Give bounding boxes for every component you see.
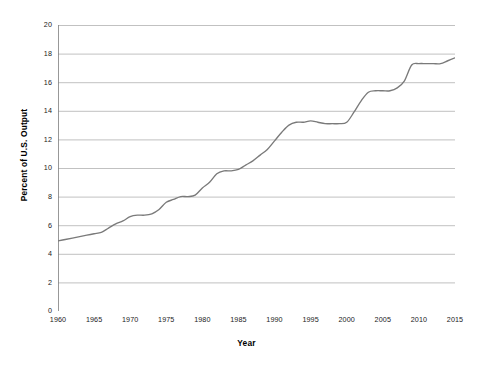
- chart-svg: [58, 25, 455, 311]
- plot-area: [58, 25, 455, 311]
- x-tick-label: 1990: [255, 316, 295, 323]
- y-tick-label: 0: [28, 307, 52, 314]
- x-tick-label: 1975: [146, 316, 186, 323]
- y-tick-label: 20: [28, 21, 52, 28]
- y-tick-label: 18: [28, 50, 52, 57]
- x-axis-title: Year: [0, 338, 493, 348]
- x-tick-label: 2010: [399, 316, 439, 323]
- x-tick-label: 2000: [327, 316, 367, 323]
- x-tick-label: 1980: [182, 316, 222, 323]
- x-tick-label: 1985: [218, 316, 258, 323]
- y-tick-label: 6: [28, 222, 52, 229]
- y-axis-title: Percent of U.S. Output: [19, 75, 29, 235]
- data-series-line: [58, 58, 455, 241]
- x-tick-label: 1960: [38, 316, 78, 323]
- y-tick-label: 16: [28, 79, 52, 86]
- y-tick-label: 14: [28, 107, 52, 114]
- x-tick-label: 1965: [74, 316, 114, 323]
- axis-lines-group: [58, 25, 455, 311]
- x-tick-label: 2015: [435, 316, 475, 323]
- y-tick-label: 12: [28, 136, 52, 143]
- y-tick-label: 2: [28, 279, 52, 286]
- x-tick-label: 1970: [110, 316, 150, 323]
- y-tick-label: 4: [28, 250, 52, 257]
- gridlines-group: [58, 26, 455, 312]
- chart-container: 02468101214161820 1960196519701975198019…: [0, 0, 493, 371]
- x-tick-label: 2005: [363, 316, 403, 323]
- y-tick-label: 8: [28, 193, 52, 200]
- x-tick-label: 1995: [291, 316, 331, 323]
- y-tick-label: 10: [28, 164, 52, 171]
- x-axis-tick-labels: 1960196519701975198019851990199520002005…: [0, 316, 493, 330]
